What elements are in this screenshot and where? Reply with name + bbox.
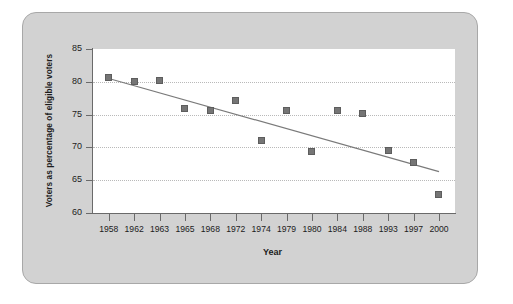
y-tick-label-75: 75 [60,109,82,119]
y-axis-line [92,48,93,214]
data-point-1988 [359,110,366,117]
x-axis-title: Year [90,247,455,257]
y-tick-label-65: 65 [60,174,82,184]
x-tick-mark-1962 [134,214,135,221]
data-point-1984 [334,107,341,114]
x-tick-mark-1974 [261,214,262,221]
data-point-1993 [385,147,392,154]
x-tick-label-2000: 2000 [419,224,459,234]
trend-line-segment [109,79,439,172]
x-tick-mark-1972 [236,214,237,221]
y-tick-label-70: 70 [60,141,82,151]
data-point-1974 [258,137,265,144]
data-point-1972 [232,97,239,104]
data-point-1979 [283,107,290,114]
x-tick-mark-1993 [388,214,389,221]
x-tick-mark-1965 [185,214,186,221]
data-point-1980 [308,148,315,155]
y-tick-mark-60 [86,213,92,214]
y-tick-mark-80 [86,82,92,83]
trend-line [93,49,455,213]
y-tick-mark-65 [86,180,92,181]
x-tick-mark-1988 [363,214,364,221]
x-tick-mark-1984 [337,214,338,221]
y-tick-mark-70 [86,147,92,148]
x-tick-mark-2000 [439,214,440,221]
data-point-1968 [207,107,214,114]
x-tick-mark-1980 [312,214,313,221]
y-tick-label-80: 80 [60,76,82,86]
y-tick-label-85: 85 [60,43,82,53]
y-tick-label-60: 60 [60,207,82,217]
y-tick-mark-75 [86,115,92,116]
y-tick-mark-85 [86,49,92,50]
y-axis-title: Voters as percentage of eligible voters [45,41,54,221]
data-point-1958 [105,74,112,81]
x-tick-mark-1958 [109,214,110,221]
x-tick-mark-1968 [210,214,211,221]
data-point-1962 [131,78,138,85]
data-point-2000 [435,191,442,198]
x-tick-mark-1963 [160,214,161,221]
x-tick-mark-1979 [287,214,288,221]
data-point-1965 [181,105,188,112]
data-point-1997 [410,159,417,166]
x-tick-mark-1997 [414,214,415,221]
voter-turnout-scatter-chart: Voters as percentage of eligible voters … [0,0,513,304]
data-point-1963 [156,77,163,84]
x-axis-line [92,213,456,214]
